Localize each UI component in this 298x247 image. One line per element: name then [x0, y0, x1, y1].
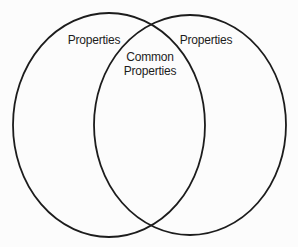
right-circle: [94, 15, 286, 235]
intersection-label: Common Properties: [124, 50, 177, 78]
venn-diagram: Properties Properties Common Properties: [0, 0, 298, 247]
intersection-label-line1: Common: [124, 50, 177, 64]
left-circle-label: Properties: [68, 33, 121, 47]
venn-circles: [0, 0, 298, 247]
right-circle-label: Properties: [180, 33, 233, 47]
intersection-label-line2: Properties: [124, 64, 177, 78]
